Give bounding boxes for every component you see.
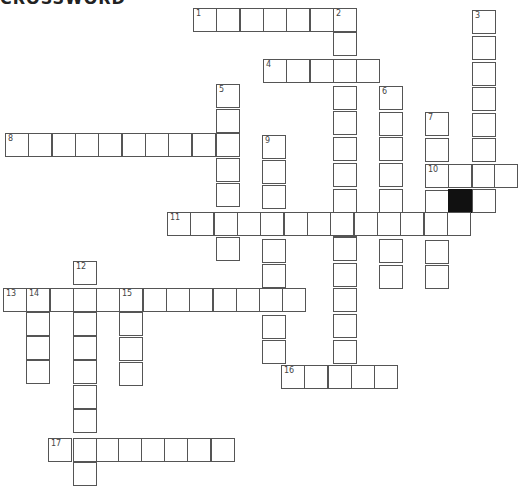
grid-cell[interactable] [330,212,354,236]
grid-cell[interactable] [282,288,306,312]
grid-cell[interactable] [424,212,448,236]
grid-cell[interactable] [379,239,403,263]
grid-cell[interactable] [425,240,449,264]
grid-cell[interactable] [96,288,120,312]
grid-cell[interactable] [333,59,357,83]
grid-cell[interactable] [73,438,97,462]
grid-cell[interactable] [472,189,496,213]
grid-cell[interactable] [73,360,97,384]
grid-cell[interactable] [328,365,352,389]
grid-cell[interactable] [213,288,237,312]
grid-cell[interactable] [286,59,310,83]
grid-cell[interactable]: 4 [263,59,287,83]
grid-cell[interactable] [262,340,286,364]
grid-cell[interactable]: 15 [119,288,143,312]
grid-cell[interactable]: 16 [281,365,305,389]
grid-cell[interactable]: 5 [216,84,240,108]
grid-cell[interactable] [211,438,235,462]
grid-cell[interactable] [263,8,287,32]
grid-cell[interactable] [73,462,97,486]
grid-cell[interactable] [472,87,496,111]
grid-cell[interactable]: 1 [193,8,217,32]
grid-cell[interactable] [333,137,357,161]
grid-cell[interactable] [145,133,169,157]
grid-cell[interactable] [472,36,496,60]
grid-cell[interactable] [333,340,357,364]
grid-cell[interactable] [333,263,357,287]
grid-cell[interactable] [28,133,52,157]
grid-cell[interactable] [216,133,240,157]
grid-cell[interactable] [216,158,240,182]
grid-cell[interactable] [310,8,334,32]
grid-cell[interactable] [26,312,50,336]
grid-cell[interactable]: 8 [5,133,29,157]
grid-cell[interactable] [73,336,97,360]
grid-cell[interactable] [472,113,496,137]
grid-cell[interactable] [187,438,211,462]
grid-cell[interactable] [333,314,357,338]
grid-cell[interactable] [52,133,76,157]
grid-cell[interactable] [164,438,188,462]
grid-cell[interactable] [379,137,403,161]
grid-cell[interactable]: 12 [73,261,97,285]
grid-cell[interactable] [50,288,74,312]
grid-cell[interactable]: 11 [167,212,191,236]
grid-cell[interactable] [425,190,449,214]
grid-cell[interactable]: 17 [48,438,72,462]
grid-cell[interactable] [73,288,97,312]
grid-cell[interactable] [259,288,283,312]
grid-cell[interactable] [262,185,286,209]
grid-cell[interactable] [190,212,214,236]
grid-cell[interactable] [122,133,146,157]
grid-cell[interactable] [472,62,496,86]
grid-cell[interactable] [304,365,328,389]
grid-cell[interactable] [75,133,99,157]
grid-cell[interactable]: 2 [333,8,357,32]
grid-cell[interactable] [354,212,378,236]
grid-cell[interactable] [425,138,449,162]
grid-cell[interactable] [240,8,264,32]
grid-cell[interactable] [96,438,120,462]
grid-cell[interactable]: 6 [379,86,403,110]
grid-cell[interactable] [333,32,357,56]
grid-cell[interactable] [284,212,308,236]
grid-cell[interactable] [374,365,398,389]
grid-cell[interactable] [379,189,403,213]
grid-cell[interactable] [262,239,286,263]
grid-cell[interactable] [356,59,380,83]
grid-cell[interactable] [73,409,97,433]
grid-cell[interactable] [333,86,357,110]
grid-cell[interactable] [166,288,190,312]
grid-cell[interactable] [192,133,216,157]
grid-cell[interactable] [379,112,403,136]
grid-cell[interactable] [494,164,518,188]
grid-cell[interactable] [333,288,357,312]
grid-cell[interactable] [379,163,403,187]
grid-cell[interactable] [119,362,143,386]
grid-cell[interactable] [26,360,50,384]
grid-cell[interactable] [119,337,143,361]
grid-cell[interactable] [216,237,240,261]
grid-cell[interactable] [333,189,357,213]
grid-cell[interactable] [286,8,310,32]
grid-cell[interactable] [98,133,122,157]
grid-cell[interactable] [168,133,192,157]
grid-cell[interactable] [73,385,97,409]
grid-cell[interactable] [377,212,401,236]
grid-cell[interactable] [216,183,240,207]
grid-cell[interactable] [472,164,496,188]
grid-cell[interactable] [400,212,424,236]
grid-cell[interactable]: 3 [472,10,496,34]
grid-cell[interactable] [333,111,357,135]
grid-cell[interactable] [472,138,496,162]
grid-cell[interactable] [307,212,331,236]
grid-cell[interactable]: 10 [425,164,449,188]
grid-cell[interactable] [26,336,50,360]
grid-cell[interactable]: 14 [26,288,50,312]
grid-cell[interactable] [189,288,213,312]
grid-cell[interactable] [237,212,261,236]
grid-cell[interactable]: 9 [262,135,286,159]
grid-cell[interactable] [236,288,260,312]
grid-cell[interactable] [447,212,471,236]
grid-cell[interactable] [73,312,97,336]
